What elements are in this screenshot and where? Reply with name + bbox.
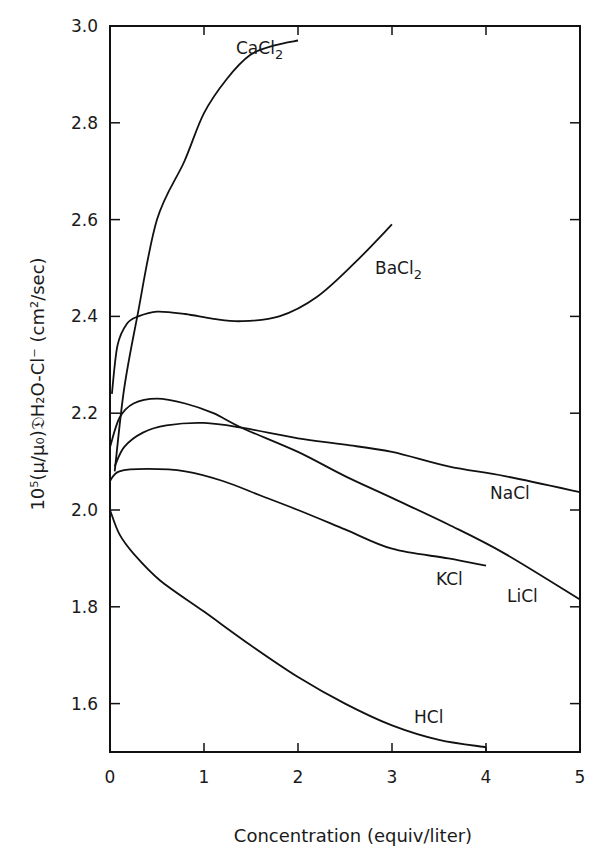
y-tick-label: 2.0 — [71, 500, 98, 520]
series-label-bacl2: BaCl2 — [375, 258, 422, 282]
x-tick-label: 2 — [293, 767, 304, 787]
plot-frame — [110, 26, 580, 752]
x-tick-label: 1 — [199, 767, 210, 787]
y-tick-label: 2.2 — [71, 403, 98, 423]
plot-area-border — [110, 26, 580, 752]
y-tick-label: 1.8 — [71, 597, 98, 617]
series-labels: CaCl2BaCl2LiClNaClKClHCl — [236, 38, 538, 727]
x-tick-label: 3 — [387, 767, 398, 787]
chart: 012345 1.61.82.02.22.42.62.83.0 CaCl2BaC… — [0, 0, 604, 868]
series-label-cacl2: CaCl2 — [236, 38, 283, 62]
series-label-licl: LiCl — [507, 586, 538, 606]
series-label-kcl: KCl — [436, 569, 463, 589]
x-tick-label: 5 — [575, 767, 586, 787]
curve-bacl2 — [112, 224, 392, 393]
curve-cacl2 — [115, 41, 298, 472]
curve-kcl — [110, 469, 486, 566]
x-axis-title: Concentration (equiv/liter) — [234, 825, 472, 846]
curve-nacl — [115, 423, 580, 492]
series-curves — [110, 41, 580, 753]
x-tick-label: 0 — [105, 767, 116, 787]
series-label-nacl: NaCl — [490, 483, 530, 503]
y-tick-label: 2.8 — [71, 113, 98, 133]
y-tick-label: 2.6 — [71, 210, 98, 230]
x-axis: 012345 — [105, 26, 586, 787]
y-axis: 1.61.82.02.22.42.62.83.0 — [71, 16, 580, 714]
x-tick-label: 4 — [481, 767, 492, 787]
series-label-hcl: HCl — [414, 707, 443, 727]
y-axis-title: 10⁵(μ/μ₀)𝔇H₂O-Cl⁻ (cm²/sec) — [27, 257, 48, 510]
y-tick-label: 1.6 — [71, 694, 98, 714]
y-tick-label: 3.0 — [71, 16, 98, 36]
y-tick-label: 2.4 — [71, 306, 98, 326]
